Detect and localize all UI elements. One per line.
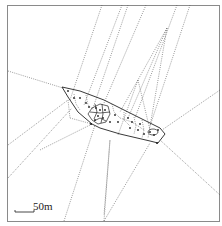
scale-bar-label: 50m: [33, 201, 53, 212]
scale-bar: [15, 210, 34, 212]
site-points: [67, 90, 159, 144]
dense-cluster: [88, 104, 158, 135]
map-frame: [8, 6, 220, 222]
voronoi-rays: [8, 5, 220, 221]
tessellation-diagram: [0, 0, 222, 226]
